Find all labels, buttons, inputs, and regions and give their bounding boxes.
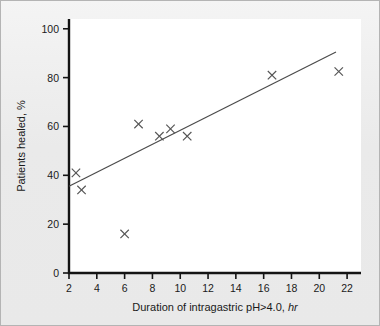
x-axis-label: Duration of intragastric pH>4.0, hr — [132, 301, 299, 313]
figure-panel: 246810121416182022 020406080100 Duration… — [0, 0, 380, 326]
y-tick-label-40: 40 — [47, 169, 59, 181]
x-axis-tick-labels: 246810121416182022 — [66, 282, 353, 294]
y-tick-label-100: 100 — [41, 23, 59, 35]
y-axis-tick-labels: 020406080100 — [41, 23, 59, 279]
plot-area-background — [69, 19, 361, 273]
x-tick-label-4: 4 — [94, 282, 100, 294]
scatter-plot: 246810121416182022 020406080100 Duration… — [1, 1, 380, 326]
x-tick-label-20: 20 — [313, 282, 325, 294]
x-tick-label-16: 16 — [258, 282, 270, 294]
x-tick-label-8: 8 — [150, 282, 156, 294]
y-tick-label-0: 0 — [53, 267, 59, 279]
x-tick-label-22: 22 — [341, 282, 353, 294]
y-axis-label: Patients healed, % — [15, 100, 27, 192]
x-tick-label-2: 2 — [66, 282, 72, 294]
y-tick-label-20: 20 — [47, 218, 59, 230]
x-tick-label-12: 12 — [202, 282, 214, 294]
x-tick-label-6: 6 — [122, 282, 128, 294]
x-tick-label-14: 14 — [230, 282, 242, 294]
x-tick-label-10: 10 — [174, 282, 186, 294]
y-tick-label-60: 60 — [47, 120, 59, 132]
y-tick-label-80: 80 — [47, 72, 59, 84]
x-tick-label-18: 18 — [286, 282, 298, 294]
